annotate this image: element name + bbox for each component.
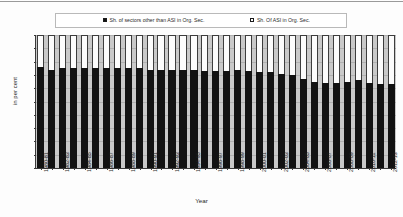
x-tick-label: 1984-85 [86, 140, 92, 172]
bar-segment-asi [48, 35, 55, 70]
x-tick-label: 2000-01 [261, 140, 267, 172]
x-tick-label: 2008-09 [348, 140, 354, 172]
bar-segment-other [333, 83, 340, 168]
x-tick-label: 1994-95 [195, 140, 201, 172]
bar-segment-asi [234, 35, 241, 70]
x-tick-label: 1992-93 [174, 140, 180, 172]
bar-segment-asi [147, 35, 154, 70]
bar-segment-asi [103, 35, 110, 68]
page-top-rule [0, 1, 403, 2]
bar-segment-asi [278, 35, 285, 74]
bar-column [92, 35, 99, 168]
bar-segment-asi [70, 35, 77, 68]
x-tick-label: 1990-91 [152, 140, 158, 172]
bar-column [267, 35, 274, 168]
x-axis-title: Year [0, 197, 403, 204]
bar-segment-other [92, 68, 99, 168]
x-tick-label: 2006-07 [326, 140, 332, 172]
bar-segment-other [223, 71, 230, 168]
x-tick-mark [96, 168, 97, 170]
bar-segment-asi [201, 35, 208, 71]
bar-column [201, 35, 208, 168]
bar-segment-other [70, 68, 77, 168]
bar-column [355, 35, 362, 168]
x-tick-mark [380, 168, 381, 170]
bar-segment-asi [125, 35, 132, 68]
x-tick-mark [271, 168, 272, 170]
x-tick-mark [249, 168, 250, 170]
bar-segment-asi [388, 35, 395, 84]
bar-column [48, 35, 55, 168]
legend-label-0: Sh. of sectors other than ASI in Org. Se… [110, 18, 205, 23]
x-tick-label: 2002-03 [283, 140, 289, 172]
bar-segment-other [114, 68, 121, 168]
legend-swatch-icon-0 [103, 18, 107, 22]
bar-segment-other [157, 70, 164, 168]
bar-segment-asi [289, 35, 296, 75]
bar-segment-other [377, 84, 384, 168]
bar-segment-asi [245, 35, 252, 71]
x-tick-mark [358, 168, 359, 170]
legend-swatch-icon-1 [250, 18, 254, 22]
x-tick-label: 1998-99 [239, 140, 245, 172]
x-tick-mark [140, 168, 141, 170]
bar-segment-other [179, 70, 186, 168]
bar-segment-asi [300, 35, 307, 79]
x-tick-mark [205, 168, 206, 170]
legend-label-1: Sh. Of ASI in Org. Sec. [257, 18, 310, 23]
x-tick-mark [161, 168, 162, 170]
bar-segment-asi [322, 35, 329, 83]
x-tick-label: 2010-11 [370, 140, 376, 172]
x-tick-label: 1982-83 [64, 140, 70, 172]
bar-segment-other [267, 72, 274, 168]
bar-segment-other [48, 70, 55, 168]
bar-segment-asi [344, 35, 351, 82]
x-tick-mark [227, 168, 228, 170]
bar-segment-asi [136, 35, 143, 68]
x-tick-mark [314, 168, 315, 170]
bar-column [377, 35, 384, 168]
x-tick-label: 1996-97 [217, 140, 223, 172]
bar-segment-asi [355, 35, 362, 80]
bar-column [311, 35, 318, 168]
bar-column [179, 35, 186, 168]
chart-legend: Sh. of sectors other than ASI in Org. Se… [55, 13, 347, 28]
bar-column [157, 35, 164, 168]
bar-segment-other [311, 82, 318, 168]
x-tick-mark [118, 168, 119, 170]
bar-segment-asi [190, 35, 197, 70]
bar-column [70, 35, 77, 168]
bar-segment-asi [92, 35, 99, 68]
bar-segment-asi [81, 35, 88, 68]
x-tick-label: 1986-87 [108, 140, 114, 172]
x-tick-mark [292, 168, 293, 170]
bar-segment-asi [366, 35, 373, 83]
x-tick-mark [336, 168, 337, 170]
bar-segment-other [289, 75, 296, 168]
y-tick-mark [34, 168, 36, 169]
bar-column [245, 35, 252, 168]
bar-column [114, 35, 121, 168]
bar-segment-other [136, 68, 143, 168]
bar-segment-asi [311, 35, 318, 82]
bar-segment-asi [37, 35, 44, 67]
bar-segment-asi [212, 35, 219, 71]
x-tick-label: 1988-89 [130, 140, 136, 172]
y-axis-title: in per cent [12, 61, 18, 121]
bar-segment-asi [256, 35, 263, 72]
bar-segment-asi [114, 35, 121, 68]
bar-segment-asi [333, 35, 340, 83]
bar-column [289, 35, 296, 168]
x-tick-label: 2004-05 [304, 140, 310, 172]
bar-segment-other [245, 71, 252, 168]
legend-item-0: Sh. of sectors other than ASI in Org. Se… [103, 18, 204, 23]
bar-segment-asi [179, 35, 186, 70]
bar-segment-other [355, 80, 362, 168]
bar-segment-asi [223, 35, 230, 71]
bar-column [333, 35, 340, 168]
legend-item-1: Sh. Of ASI in Org. Sec. [250, 18, 310, 23]
bar-segment-asi [267, 35, 274, 72]
x-tick-label: 1980-81 [43, 140, 49, 172]
x-tick-mark [52, 168, 53, 170]
chart-container: Sh. of sectors other than ASI in Org. Se… [0, 0, 403, 217]
